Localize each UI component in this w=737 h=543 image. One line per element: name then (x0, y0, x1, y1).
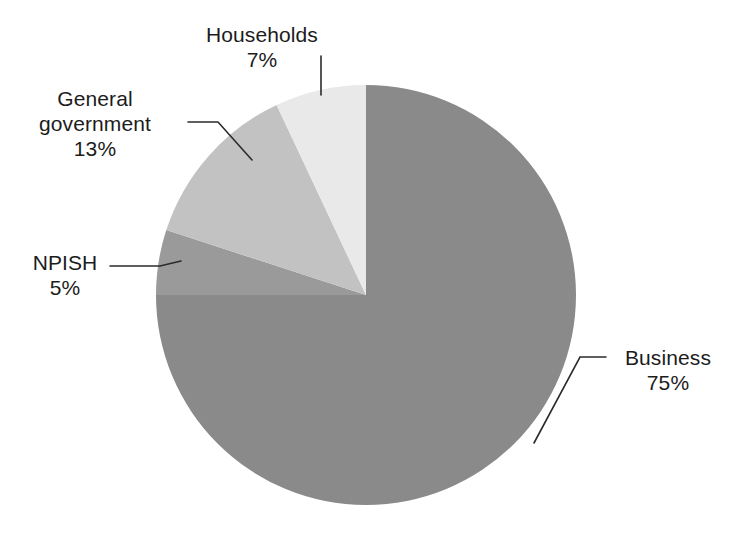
slice-label-households-name: Households (180, 22, 344, 47)
slice-label-general-government-value: 13% (6, 136, 184, 161)
slice-label-households: Households 7% (180, 22, 344, 72)
pie-slice-group (156, 85, 576, 505)
slice-label-npish: NPISH 5% (6, 250, 124, 300)
slice-label-general-government-name-line1: General (6, 86, 184, 111)
slice-label-general-government: General government 13% (6, 86, 184, 161)
slice-label-npish-name: NPISH (6, 250, 124, 275)
slice-label-general-government-name-line2: government (6, 111, 184, 136)
slice-label-households-value: 7% (180, 47, 344, 72)
pie-chart-figure: Households 7% General government 13% NPI… (0, 0, 737, 543)
slice-label-business-value: 75% (608, 370, 728, 395)
slice-label-npish-value: 5% (6, 275, 124, 300)
slice-label-business-name: Business (608, 345, 728, 370)
slice-label-business: Business 75% (608, 345, 728, 395)
